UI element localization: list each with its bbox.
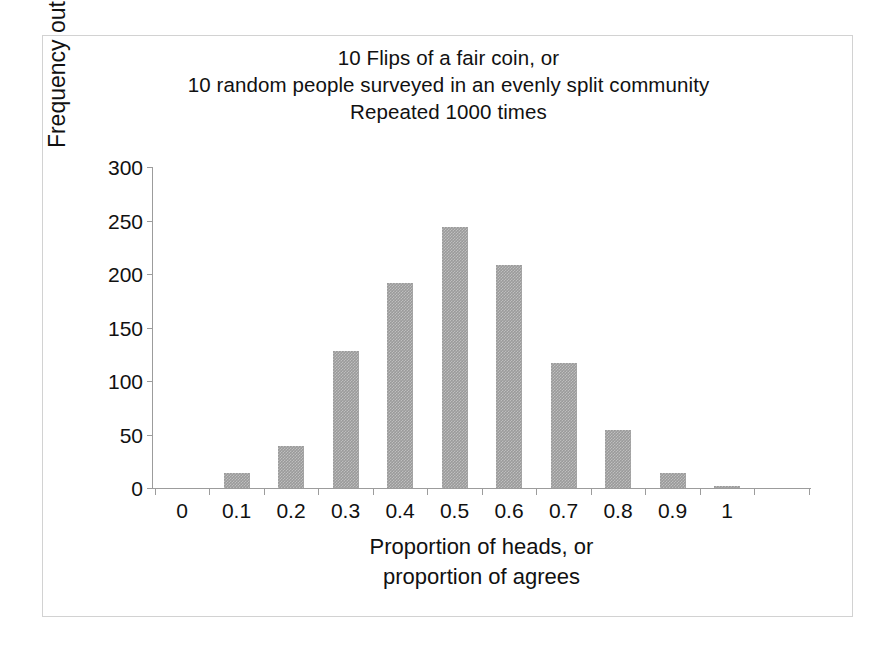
x-tick-label: 0.3	[331, 499, 360, 523]
x-tick-mark	[700, 489, 701, 495]
x-tick-mark	[209, 489, 210, 495]
x-tick-mark	[754, 489, 755, 495]
x-tick-mark	[591, 489, 592, 495]
bar	[278, 446, 304, 488]
x-tick-mark	[155, 489, 156, 495]
y-axis-line	[152, 167, 153, 489]
chart-figure-frame: 10 Flips of a fair coin, or 10 random pe…	[42, 35, 853, 617]
y-tick-mark	[147, 167, 152, 168]
chart-title: 10 Flips of a fair coin, or 10 random pe…	[43, 44, 854, 125]
y-tick-label: 100	[108, 371, 143, 392]
x-tick-label: 1	[721, 499, 733, 523]
bar	[224, 473, 250, 488]
x-axis-title-line-2: proportion of agrees	[152, 562, 811, 592]
x-tick-mark	[264, 489, 265, 495]
y-tick-label: 50	[120, 424, 143, 445]
bar	[660, 473, 686, 488]
y-tick-label: 200	[108, 264, 143, 285]
x-tick-label: 0.1	[222, 499, 251, 523]
x-tick-label: 0.5	[440, 499, 469, 523]
y-tick-mark	[147, 328, 152, 329]
x-tick-label: 0.8	[603, 499, 632, 523]
bar	[714, 486, 740, 488]
bar	[605, 430, 631, 488]
x-axis-title: Proportion of heads, or proportion of ag…	[152, 532, 811, 592]
x-axis-title-line-1: Proportion of heads, or	[152, 532, 811, 562]
x-tick-mark	[482, 489, 483, 495]
plot-area: 0 50 100 150 200 250 300 00.10.20.30.40.…	[152, 167, 811, 489]
x-tick-mark	[809, 489, 810, 495]
x-tick-label: 0.9	[658, 499, 687, 523]
x-tick-mark	[536, 489, 537, 495]
y-axis-title: Frequency out of 1000	[40, 0, 74, 198]
x-tick-label: 0	[176, 499, 188, 523]
y-tick-label: 150	[108, 317, 143, 338]
y-tick-mark	[147, 221, 152, 222]
bar	[496, 265, 522, 488]
x-tick-mark	[645, 489, 646, 495]
y-tick-label: 250	[108, 210, 143, 231]
bar	[333, 351, 359, 488]
x-tick-mark	[373, 489, 374, 495]
x-tick-label: 0.6	[494, 499, 523, 523]
x-tick-label: 0.7	[549, 499, 578, 523]
bar	[551, 363, 577, 488]
bar	[442, 227, 468, 488]
x-tick-mark	[427, 489, 428, 495]
y-tick-mark	[147, 435, 152, 436]
y-tick-mark	[147, 274, 152, 275]
chart-title-line-2: 10 random people surveyed in an evenly s…	[43, 71, 854, 98]
y-tick-mark	[147, 488, 152, 489]
chart-title-line-3: Repeated 1000 times	[43, 98, 854, 125]
bar	[387, 283, 413, 488]
y-tick-mark	[147, 381, 152, 382]
x-tick-label: 0.2	[276, 499, 305, 523]
x-tick-mark	[318, 489, 319, 495]
y-tick-label: 300	[108, 157, 143, 178]
y-tick-label: 0	[131, 478, 143, 499]
chart-title-line-1: 10 Flips of a fair coin, or	[43, 44, 854, 71]
x-tick-label: 0.4	[385, 499, 414, 523]
